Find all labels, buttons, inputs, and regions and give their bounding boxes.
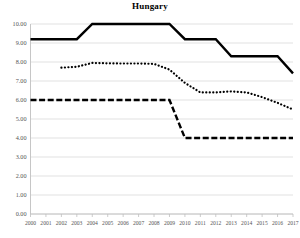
- x-tick-label: 2007: [133, 220, 144, 226]
- x-tick-label: 2005: [102, 220, 113, 226]
- y-tick-label: 1.00: [16, 191, 27, 198]
- y-tick-label: 3.00: [16, 153, 27, 160]
- gridlines-group: [31, 24, 294, 214]
- y-tick-label: 9.00: [16, 39, 27, 46]
- y-tick-label: 0.00: [16, 210, 27, 217]
- line-chart-plot: 10.009.008.007.006.005.004.003.002.001.0…: [0, 0, 300, 238]
- x-tick-label: 2008: [148, 220, 159, 226]
- x-tick-label: 2014: [241, 220, 252, 226]
- x-tick-label: 2017: [287, 220, 298, 226]
- x-tick-label: 2010: [179, 220, 190, 226]
- y-tick-label: 5.00: [16, 115, 27, 122]
- y-tick-label: 4.00: [16, 134, 27, 141]
- x-tick-label: 2012: [210, 220, 221, 226]
- y-tick-label: 2.00: [16, 172, 27, 179]
- x-tick-label: 2001: [40, 220, 51, 226]
- chart-container: Hungary 10.009.008.007.006.005.004.003.0…: [0, 0, 300, 238]
- x-tick-label: 2000: [25, 220, 36, 226]
- y-tick-label: 7.00: [16, 77, 27, 84]
- x-tick-label: 2009: [164, 220, 175, 226]
- x-tick-label: 2003: [71, 220, 82, 226]
- y-tick-label: 6.00: [16, 96, 27, 103]
- series-line-dotted-series: [61, 63, 293, 110]
- x-tick-label: 2016: [272, 220, 283, 226]
- y-tick-label: 8.00: [16, 58, 27, 65]
- x-tick-label: 2006: [118, 220, 129, 226]
- x-tick-label: 2002: [56, 220, 67, 226]
- x-tick-label: 2004: [87, 220, 98, 226]
- x-axis-tick-labels: 2000200120022003200420052006200720082009…: [25, 220, 299, 226]
- y-axis-tick-labels: 10.009.008.007.006.005.004.003.002.001.0…: [13, 20, 27, 217]
- y-tick-label: 10.00: [13, 20, 27, 27]
- x-tick-label: 2013: [226, 220, 237, 226]
- x-tick-label: 2015: [257, 220, 268, 226]
- x-tick-label: 2011: [195, 220, 206, 226]
